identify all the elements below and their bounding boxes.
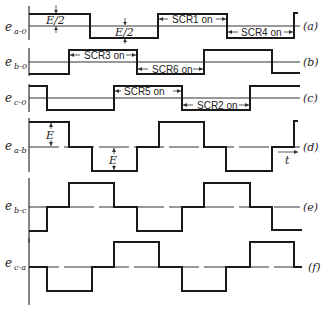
panel-d-label: ea-b	[5, 139, 27, 155]
panel-d-amplitude-annotation-up: E	[45, 123, 56, 146]
e-half-label: E/2	[45, 14, 65, 27]
time-arrow: t	[278, 150, 298, 167]
panel-e: eb-c (e)	[5, 178, 318, 243]
e-half-label: E/2	[114, 26, 134, 39]
panel-e-tag: (e)	[303, 201, 318, 214]
panel-e-label: eb-c	[5, 199, 27, 215]
panel-c-tag: (c)	[303, 92, 318, 105]
panel-c-label: ec-0	[5, 91, 26, 107]
panel-f: ec-a (f)	[5, 238, 321, 305]
panel-e-waveform	[29, 183, 302, 231]
scr1-on-label: SCR1 on	[172, 14, 213, 25]
panel-f-tag: (f)	[308, 261, 321, 274]
scr4-on-label: SCR4 on	[241, 27, 282, 38]
scr3-interval: SCR3 on	[70, 50, 136, 61]
panel-d-waveform	[29, 121, 298, 171]
scr4-interval: SCR4 on	[228, 27, 293, 38]
panel-b: eb-0 (b) SCR3 on SCR6 on	[5, 48, 319, 76]
panel-f-label: ec-a	[5, 256, 26, 272]
e-amplitude-label: E	[45, 129, 54, 142]
panel-d-amplitude-annotation-down: E	[108, 148, 119, 170]
time-label: t	[285, 154, 290, 167]
panel-c: ec-0 (c) SCR5 on SCR2 on	[5, 84, 318, 112]
panel-b-tag: (b)	[303, 56, 319, 69]
scr6-on-label: SCR6 on	[152, 64, 193, 75]
panel-a-label: ea-0	[5, 20, 27, 36]
inverter-waveform-diagram: ea-0 (a) E/2 E/2 SCR1 on	[0, 0, 327, 309]
scr2-on-label: SCR2 on	[197, 100, 238, 111]
e-amplitude-label: E	[108, 154, 117, 167]
panel-d-tag: (d)	[303, 141, 319, 154]
panel-a-amplitude-annotation-up: E/2	[45, 5, 65, 33]
scr5-on-label: SCR5 on	[124, 86, 165, 97]
panel-b-label: eb-0	[5, 55, 27, 71]
scr3-on-label: SCR3 on	[84, 50, 125, 61]
scr5-interval: SCR5 on	[115, 86, 181, 97]
panel-a: ea-0 (a) E/2 E/2 SCR1 on	[5, 5, 318, 44]
panel-d: ea-b (d) E E t	[5, 118, 319, 172]
panel-a-amplitude-annotation-down: E/2	[114, 18, 134, 44]
panel-a-tag: (a)	[303, 20, 318, 33]
scr1-interval: SCR1 on	[159, 14, 226, 25]
